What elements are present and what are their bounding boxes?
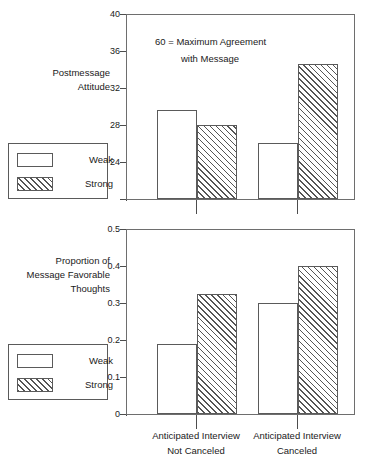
y-tick-label-36: 36 <box>96 47 120 56</box>
bar-strong-canceled <box>298 64 338 199</box>
legend-swatch-weak-icon <box>17 153 53 167</box>
legend-entry-weak-bottom: Weak <box>17 352 53 369</box>
legend-swatch-weak-icon <box>17 354 53 368</box>
x-axis-label-canceled-line2: Canceled <box>222 443 368 458</box>
legend-label-strong: Strong <box>79 179 113 189</box>
x-axis-label-canceled: Anticipated Interview Canceled <box>222 428 368 458</box>
plot-area-top: 60 = Maximum Agreement with Message <box>126 14 355 200</box>
x-tick-mark-not-canceled-top <box>196 200 197 214</box>
y-tick-label-04: 0.4 <box>88 262 120 271</box>
y-axis-title-bottom: Proportion of Message Favorable Thoughts <box>6 254 110 296</box>
legend-bottom: Weak Strong <box>8 344 108 400</box>
y-tick-label-05: 0.5 <box>88 225 120 234</box>
bar-strong-not-canceled <box>197 125 237 199</box>
legend-label-weak-bottom: Weak <box>79 356 113 366</box>
legend-top: Weak Strong <box>8 143 108 199</box>
y-axis-title-top-line1: Postmessage <box>14 66 110 80</box>
plot-annotation-line2: with Message <box>155 50 266 67</box>
bar-weak-not-canceled <box>157 110 197 199</box>
plot-area-bottom <box>126 229 355 415</box>
y-tick-label-28: 28 <box>96 121 120 130</box>
legend-swatch-strong-icon <box>17 177 53 191</box>
bar-strong-not-canceled-bottom <box>197 294 237 414</box>
legend-entry-strong: Strong <box>17 175 53 192</box>
y-tick-label-0: 0 <box>88 410 120 419</box>
panel-postmessage-attitude: Postmessage Attitude Weak Strong 40 36 3… <box>0 0 368 230</box>
y-tick-label-40: 40 <box>96 10 120 19</box>
y-tick-label-03: 0.3 <box>88 299 120 308</box>
bar-weak-not-canceled-bottom <box>157 344 197 414</box>
y-tick-label-32: 32 <box>96 84 120 93</box>
x-axis-label-canceled-line1: Anticipated Interview <box>222 428 368 443</box>
legend-entry-strong-bottom: Strong <box>17 376 53 393</box>
panel-proportion-favorable-thoughts: Proportion of Message Favorable Thoughts… <box>0 228 368 460</box>
bar-weak-canceled <box>258 143 298 199</box>
bar-strong-canceled-bottom <box>298 266 338 414</box>
x-tick-mark-not-canceled-bottom <box>196 415 197 429</box>
x-tick-mark-canceled-bottom <box>297 415 298 429</box>
y-tick-label-01: 0.1 <box>88 373 120 382</box>
plot-annotation-line1: 60 = Maximum Agreement <box>155 36 266 47</box>
bar-weak-canceled-bottom <box>258 303 298 414</box>
legend-entry-weak: Weak <box>17 151 53 168</box>
legend-swatch-strong-icon <box>17 378 53 392</box>
plot-annotation-top: 60 = Maximum Agreement with Message <box>155 33 266 67</box>
x-tick-mark-canceled-top <box>297 200 298 214</box>
y-tick-label-02: 0.2 <box>88 336 120 345</box>
y-axis-title-bottom-line3: Thoughts <box>6 282 110 296</box>
y-tick-label-24: 24 <box>96 158 120 167</box>
